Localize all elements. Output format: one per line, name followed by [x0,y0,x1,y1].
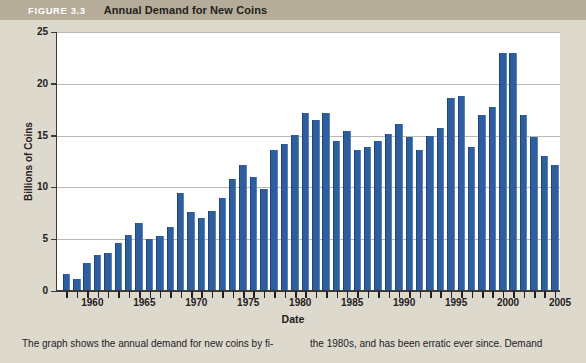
bar-1993 [437,128,444,291]
x-minor-tick-1981 [316,291,318,298]
figure-number: FIGURE 3.3 [28,5,86,16]
y-tick-label-15: 15 [8,130,48,141]
bar-1977 [270,150,277,291]
bar-1975 [250,177,257,291]
bar-1965 [146,239,153,291]
bar-1966 [156,236,163,291]
bar-1996 [468,147,475,291]
bar-2004 [551,165,558,291]
x-minor-tick-1976 [264,291,266,298]
bar-1995 [458,96,465,291]
y-axis-line [56,32,57,291]
bar-1986 [364,147,371,291]
x-minor-tick-1958 [77,291,79,298]
caption-column-right: the 1980s, and has been erratic ever sin… [310,337,564,363]
x-minor-tick-1971 [212,291,214,298]
gridline-25 [56,32,560,33]
x-minor-tick-1983 [337,291,339,298]
x-minor-tick-2004 [555,291,557,298]
bar-1974 [239,165,246,291]
bar-1959 [83,263,90,291]
x-minor-tick-1995 [461,291,463,298]
y-tick-label-5: 5 [8,233,48,244]
bar-1992 [426,136,433,291]
x-minor-tick-1979 [295,291,297,298]
x-minor-tick-1999 [503,291,505,298]
bar-1976 [260,189,267,291]
bar-1985 [354,150,361,291]
bar-2003 [541,156,548,291]
x-axis-title: Date [0,313,586,325]
bar-1964 [135,223,142,291]
x-minor-tick-1985 [357,291,359,298]
bar-1970 [198,218,205,291]
bar-2002 [530,137,537,291]
y-tick-label-25: 25 [8,26,48,37]
x-minor-tick-1997 [482,291,484,298]
bar-1962 [115,243,122,291]
x-minor-tick-1969 [191,291,193,298]
bar-1998 [489,107,496,291]
bar-1988 [385,134,392,291]
bar-1968 [177,193,184,291]
x-minor-tick-1994 [451,291,453,298]
bar-1963 [125,235,132,291]
y-axis-title: Billions of Coins [23,82,34,242]
x-minor-tick-1963 [129,291,131,298]
bar-1999 [499,53,506,291]
bar-1991 [416,150,423,291]
bar-1971 [208,211,215,291]
x-minor-tick-1968 [181,291,183,298]
x-minor-tick-1992 [430,291,432,298]
bar-1997 [478,115,485,291]
bar-1990 [406,137,413,291]
x-minor-tick-1964 [139,291,141,298]
bar-2001 [520,115,527,291]
bar-1987 [374,141,381,291]
bar-1961 [104,253,111,291]
x-minor-tick-1967 [170,291,172,298]
bar-1978 [281,144,288,291]
figure-body: Billions of Coins Date 0510152025 196019… [0,20,586,333]
x-minor-tick-1973 [233,291,235,298]
x-minor-tick-1970 [201,291,203,298]
x-minor-tick-1961 [108,291,110,298]
bar-1973 [229,179,236,291]
figure-header: FIGURE 3.3 Annual Demand for New Coins [0,0,586,20]
bar-1983 [333,141,340,291]
bar-2000 [509,53,516,291]
x-minor-tick-1974 [243,291,245,298]
x-minor-tick-1986 [368,291,370,298]
x-minor-tick-1960 [98,291,100,298]
figure-title: Annual Demand for New Coins [104,4,267,16]
bar-1980 [302,113,309,291]
x-minor-tick-1962 [118,291,120,298]
x-minor-tick-1980 [305,291,307,298]
x-minor-tick-1998 [492,291,494,298]
x-axis-line [56,290,560,292]
plot-area [56,32,560,291]
y-tick-label-20: 20 [8,78,48,89]
x-minor-tick-1984 [347,291,349,298]
bar-1979 [291,135,298,291]
gridline-20 [56,84,560,85]
bar-1957 [63,274,70,291]
caption-column-left: The graph shows the annual demand for ne… [22,337,276,363]
x-minor-tick-1966 [160,291,162,298]
y-tick-label-10: 10 [8,181,48,192]
bar-1969 [187,212,194,291]
x-minor-tick-1989 [399,291,401,298]
x-minor-tick-1996 [472,291,474,298]
y-tick-label-0: 0 [8,285,48,296]
x-minor-tick-1972 [222,291,224,298]
bar-1982 [322,113,329,291]
x-minor-tick-2003 [544,291,546,298]
x-minor-tick-1977 [274,291,276,298]
x-minor-tick-2001 [524,291,526,298]
x-minor-tick-1993 [440,291,442,298]
bar-1994 [447,98,454,291]
bar-1967 [167,227,174,291]
x-minor-tick-1988 [389,291,391,298]
x-minor-tick-1990 [409,291,411,298]
x-minor-tick-1965 [150,291,152,298]
